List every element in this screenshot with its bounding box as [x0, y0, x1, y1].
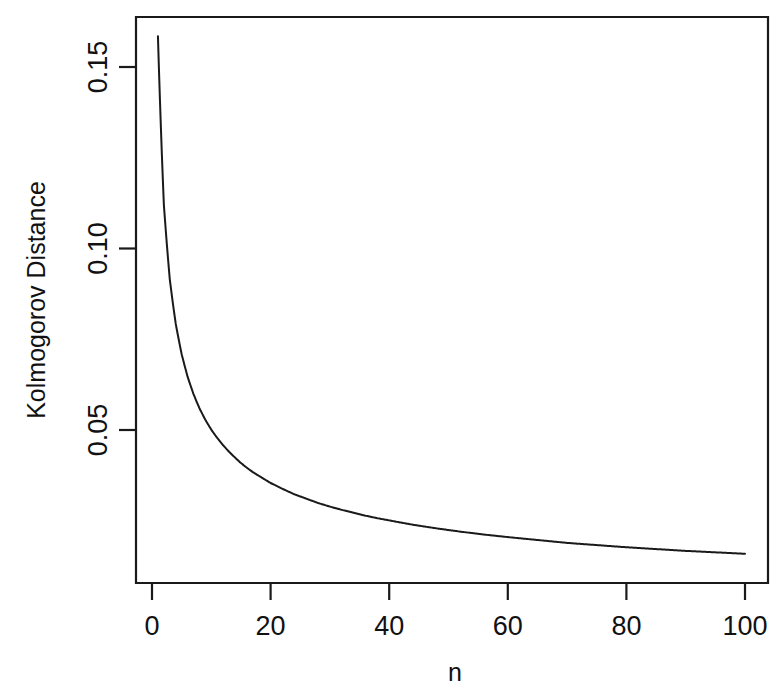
- data-curve: [158, 36, 745, 554]
- data-series-group: [158, 36, 745, 554]
- x-axis-tick-labels: 020406080100: [144, 611, 767, 641]
- x-tick-label: 40: [374, 611, 404, 641]
- y-axis-tick-labels: 0.050.100.15: [83, 41, 113, 457]
- chart-figure: 020406080100 0.050.100.15 n Kolmogorov D…: [0, 0, 784, 700]
- y-tick-label: 0.15: [83, 41, 113, 94]
- x-axis-title: n: [448, 658, 462, 686]
- plot-canvas: 020406080100 0.050.100.15 n Kolmogorov D…: [0, 0, 784, 700]
- x-tick-label: 80: [611, 611, 641, 641]
- x-tick-label: 0: [144, 611, 159, 641]
- plot-frame: [136, 17, 768, 583]
- x-axis-ticks: [152, 583, 745, 600]
- y-axis-ticks: [119, 67, 136, 430]
- y-tick-label: 0.10: [83, 222, 113, 275]
- x-tick-label: 60: [493, 611, 523, 641]
- x-tick-label: 100: [722, 611, 767, 641]
- y-axis-title: Kolmogorov Distance: [22, 181, 50, 419]
- x-tick-label: 20: [256, 611, 286, 641]
- y-tick-label: 0.05: [83, 404, 113, 457]
